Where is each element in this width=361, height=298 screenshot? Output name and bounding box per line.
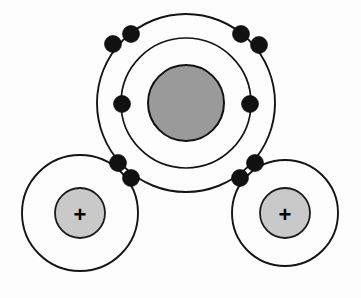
electron-bond-left-upper — [110, 155, 127, 172]
bohr-model-diagram: + + — [0, 0, 361, 298]
electron-lone-pair-top-left-inner — [123, 26, 140, 43]
electron-lone-pair-top-left-outer — [105, 36, 122, 53]
electron-left-middle — [114, 96, 131, 113]
electron-bond-right-lower — [232, 170, 249, 187]
electron-bond-left-lower — [123, 170, 140, 187]
electron-lone-pair-top-right-inner — [233, 26, 250, 43]
hydrogen-right-charge-symbol: + — [279, 202, 292, 227]
hydrogen-left-charge-symbol: + — [74, 202, 87, 227]
electron-right-middle — [242, 96, 259, 113]
electron-lone-pair-top-right-outer — [251, 37, 268, 54]
oxygen-nucleus — [148, 65, 224, 141]
molecule-canvas: + + — [0, 0, 361, 298]
electron-bond-right-upper — [247, 155, 264, 172]
